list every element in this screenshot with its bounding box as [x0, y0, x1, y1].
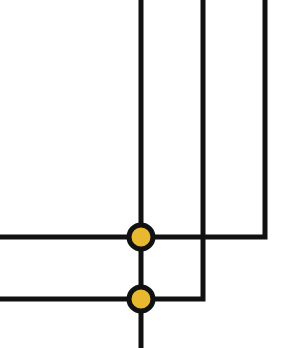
junction-node-icon — [129, 287, 153, 311]
wire-v2-to-h2 — [0, 0, 203, 299]
wiring-diagram — [0, 0, 300, 348]
junction-node-icon — [129, 225, 153, 249]
wire-v3-to-h1 — [0, 0, 265, 237]
